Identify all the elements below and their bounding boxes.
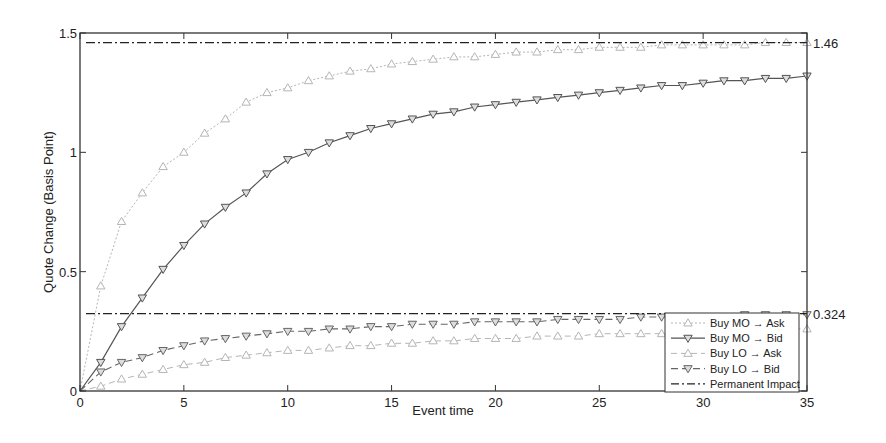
permanent-impact-value: 0.324 — [813, 307, 846, 322]
x-tick-label: 5 — [180, 395, 187, 410]
triangle-up-marker-icon — [138, 189, 146, 196]
triangle-up-marker-icon — [512, 48, 520, 55]
triangle-down-marker-icon — [574, 316, 582, 323]
triangle-up-marker-icon — [304, 77, 312, 84]
legend-label: Buy MO → Bid — [710, 332, 783, 344]
triangle-down-marker-icon — [429, 321, 437, 328]
triangle-up-marker-icon — [699, 41, 707, 48]
triangle-down-marker-icon — [242, 333, 250, 340]
triangle-up-marker-icon — [117, 375, 125, 382]
triangle-up-marker-icon — [450, 53, 458, 60]
triangle-down-marker-icon — [450, 321, 458, 328]
triangle-down-marker-icon — [782, 75, 790, 82]
triangle-up-marker-icon — [554, 332, 562, 339]
triangle-up-marker-icon — [408, 57, 416, 64]
triangle-down-marker-icon — [740, 78, 748, 85]
triangle-up-marker-icon — [637, 330, 645, 337]
triangle-down-marker-icon — [678, 83, 686, 90]
triangle-up-marker-icon — [387, 60, 395, 67]
triangle-up-marker-icon — [574, 46, 582, 53]
permanent-impact-value: 1.46 — [813, 36, 838, 51]
triangle-up-marker-icon — [491, 334, 499, 341]
reference-lines: 1.460.324 — [86, 36, 846, 322]
triangle-up-marker-icon — [574, 332, 582, 339]
x-tick-label: 30 — [696, 395, 710, 410]
triangle-down-marker-icon — [325, 140, 333, 147]
triangle-up-marker-icon — [346, 341, 354, 348]
x-axis-label: Event time — [412, 403, 473, 418]
triangle-up-marker-icon — [678, 41, 686, 48]
x-tick-label: 0 — [76, 395, 83, 410]
impact-chart: 1.460.324 0510152025303500.511.5 Event t… — [0, 0, 886, 443]
triangle-down-marker-icon — [284, 157, 292, 164]
legend-label: Buy MO → Ask — [710, 317, 785, 329]
triangle-up-marker-icon — [159, 162, 167, 169]
y-tick-label: 0 — [70, 384, 77, 399]
triangle-up-marker-icon — [616, 330, 624, 337]
triangle-down-marker-icon — [491, 319, 499, 326]
triangle-up-marker-icon — [595, 330, 603, 337]
x-tick-label: 15 — [384, 395, 398, 410]
triangle-down-marker-icon — [616, 316, 624, 323]
triangle-up-marker-icon — [554, 46, 562, 53]
y-tick-label: 1.5 — [59, 26, 77, 41]
triangle-down-marker-icon — [304, 328, 312, 335]
triangle-up-marker-icon — [117, 217, 125, 224]
triangle-up-marker-icon — [657, 41, 665, 48]
triangle-down-marker-icon — [284, 328, 292, 335]
triangle-up-marker-icon — [616, 43, 624, 50]
triangle-up-marker-icon — [595, 43, 603, 50]
triangle-up-marker-icon — [263, 88, 271, 95]
triangle-up-marker-icon — [367, 341, 375, 348]
triangle-up-marker-icon — [429, 337, 437, 344]
triangle-down-marker-icon — [595, 316, 603, 323]
x-tick-label: 10 — [280, 395, 294, 410]
triangle-down-marker-icon — [117, 324, 125, 331]
triangle-up-marker-icon — [325, 344, 333, 351]
legend-label: Buy LO → Ask — [710, 347, 782, 359]
triangle-up-marker-icon — [533, 332, 541, 339]
triangle-up-marker-icon — [284, 346, 292, 353]
legend-label: Buy LO → Bid — [710, 363, 780, 375]
legend-label: Permanent Impact — [710, 378, 800, 390]
triangle-up-marker-icon — [470, 53, 478, 60]
triangle-up-marker-icon — [491, 50, 499, 57]
triangle-down-marker-icon — [346, 326, 354, 333]
y-axis-label: Quote Change (Basis Point) — [41, 131, 56, 293]
triangle-down-marker-icon — [221, 204, 229, 211]
triangle-up-marker-icon — [720, 41, 728, 48]
triangle-up-marker-icon — [97, 282, 105, 289]
triangle-up-marker-icon — [242, 98, 250, 105]
triangle-down-marker-icon — [512, 319, 520, 326]
triangle-down-marker-icon — [637, 314, 645, 321]
triangle-up-marker-icon — [138, 370, 146, 377]
x-tick-label: 20 — [488, 395, 502, 410]
y-tick-label: 0.5 — [59, 265, 77, 280]
triangle-down-marker-icon — [242, 190, 250, 197]
triangle-down-marker-icon — [263, 331, 271, 338]
triangle-down-marker-icon — [387, 324, 395, 331]
x-tick-label: 25 — [592, 395, 606, 410]
y-tick-label: 1 — [70, 145, 77, 160]
legend: Buy MO → AskBuy MO → BidBuy LO → AskBuy … — [665, 313, 800, 392]
triangle-up-marker-icon — [325, 72, 333, 79]
triangle-up-marker-icon — [387, 339, 395, 346]
triangle-up-marker-icon — [221, 115, 229, 122]
triangle-up-marker-icon — [470, 334, 478, 341]
triangle-down-marker-icon — [470, 319, 478, 326]
triangle-up-marker-icon — [200, 129, 208, 136]
triangle-up-marker-icon — [159, 365, 167, 372]
x-tick-label: 35 — [800, 395, 814, 410]
triangle-down-marker-icon — [117, 359, 125, 366]
triangle-down-marker-icon — [533, 319, 541, 326]
